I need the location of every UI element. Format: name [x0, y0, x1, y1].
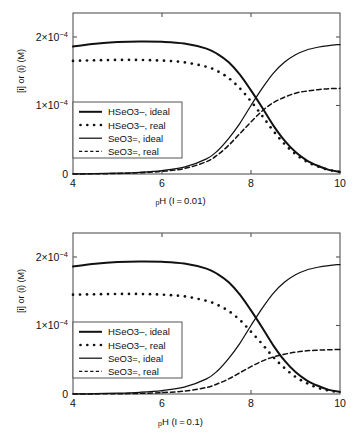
x-tick-label: 8: [248, 177, 254, 189]
y-tick-label: 0: [62, 168, 68, 180]
legend: HSeO3–, idealHSeO3–, realSeO3=, idealSeO…: [73, 102, 182, 158]
legend: HSeO3–, idealHSeO3–, realSeO3=, idealSeO…: [73, 322, 182, 378]
x-tick-label: 4: [70, 397, 76, 409]
x-axis-label-main-top: H (I = 0.01): [159, 195, 205, 206]
x-tick-label: 10: [334, 397, 346, 409]
legend-label: HSeO3–, real: [108, 120, 166, 131]
y-tick-label: 2×10−4: [36, 30, 68, 43]
legend-label: SeO3=, ideal: [108, 133, 163, 144]
legend-label: SeO3=, real: [108, 146, 159, 157]
plot-area-bottom: 4681001×10−42×10−4HSeO3–, idealHSeO3–, r…: [0, 220, 361, 441]
y-axis-label-bottom: [i] or (i) (M): [16, 231, 26, 351]
legend-label: SeO3=, real: [108, 366, 159, 377]
y-tick-label: 1×10−4: [36, 98, 68, 111]
x-tick-label: 6: [159, 397, 165, 409]
x-axis-label-top: pH (I = 0.01): [0, 195, 361, 206]
chart-panel-top: 4681001×10−42×10−4HSeO3–, idealHSeO3–, r…: [0, 0, 361, 220]
x-tick-label: 8: [248, 397, 254, 409]
y-tick-label: 2×10−4: [36, 250, 68, 263]
legend-label: HSeO3–, ideal: [108, 326, 170, 337]
legend-label: HSeO3–, real: [108, 340, 166, 351]
plot-area-top: 4681001×10−42×10−4HSeO3–, idealHSeO3–, r…: [0, 0, 361, 220]
x-axis-label-bottom: pH (I = 0.1): [0, 416, 361, 427]
legend-label: HSeO3–, ideal: [108, 106, 170, 117]
x-axis-label-main-bottom: H (I = 0.1): [162, 416, 203, 427]
y-tick-label: 1×10−4: [36, 318, 68, 331]
x-tick-label: 6: [159, 177, 165, 189]
x-tick-label: 10: [334, 177, 346, 189]
x-tick-label: 4: [70, 177, 76, 189]
y-axis-label-top: [i] or (i) (M): [16, 11, 26, 131]
y-tick-label: 0: [62, 388, 68, 400]
legend-label: SeO3=, ideal: [108, 353, 163, 364]
chart-panel-bottom: 4681001×10−42×10−4HSeO3–, idealHSeO3–, r…: [0, 220, 361, 441]
